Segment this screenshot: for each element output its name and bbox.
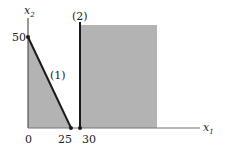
lp-diagram: x2 x1 50 0 25 30 (1) (2) [0, 0, 225, 147]
constraint-label-2: (2) [72, 10, 88, 23]
constraint-label-1: (1) [50, 69, 66, 82]
tick-origin: 0 [25, 133, 32, 146]
point-30-0 [78, 126, 82, 130]
tick-x-25: 25 [58, 133, 72, 146]
y-axis-label: x2 [24, 4, 35, 19]
point-0-50 [26, 35, 30, 39]
x-axis-label: x1 [203, 121, 214, 136]
tick-x-30: 30 [82, 133, 96, 146]
feasible-region-right [81, 25, 157, 128]
tick-y-50: 50 [12, 31, 26, 44]
point-25-0 [69, 126, 73, 130]
